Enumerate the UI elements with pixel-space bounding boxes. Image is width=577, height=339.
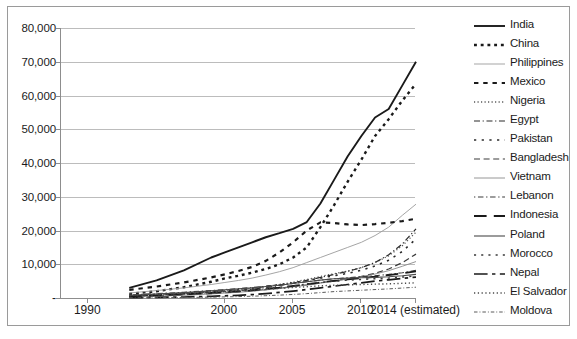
legend-item-nigeria[interactable]: Nigeria [474,90,570,109]
legend-swatch-icon [474,75,505,87]
legend-item-lebanon[interactable]: Lebanon [474,186,570,205]
legend-item-el-salvador[interactable]: El Salvador [474,281,570,300]
y-tick-label: 70,000 [4,56,56,68]
legend-item-philippines[interactable]: Philippines [474,52,570,71]
y-tick-label: 20,000 [4,225,56,237]
legend-label: Egypt [510,113,538,125]
legend-label: Poland [510,228,545,240]
series-line-nigeria [129,232,416,296]
series-line-pakistan [129,239,416,296]
chart-figure: 80,00070,00060,00050,00040,00030,00020,0… [0,0,577,339]
legend-item-nepal[interactable]: Nepal [474,262,570,281]
legend-label: Mexico [510,75,545,87]
legend-label: El Salvador [510,285,567,297]
x-tick-label: 2014 (estimated) [370,303,460,317]
legend-item-china[interactable]: China [474,33,570,52]
y-tick-label: 10,000 [4,258,56,270]
legend-label: Nepal [510,266,539,278]
legend-label: Pakistan [510,132,553,144]
legend-swatch-icon [474,18,505,30]
x-tick-label: 2005 [279,303,306,317]
legend-label: Morocco [510,247,553,259]
legend-swatch-icon [474,208,505,220]
legend-label: Indonesia [510,208,558,220]
legend-item-egypt[interactable]: Egypt [474,109,570,128]
series-line-philippines [129,204,416,293]
legend-item-mexico[interactable]: Mexico [474,71,570,90]
legend-label: China [510,37,539,49]
series-line-china [129,84,416,294]
legend-label: Vietnam [510,170,551,182]
legend-swatch-icon [474,247,505,259]
chart-legend: IndiaChinaPhilippinesMexicoNigeriaEgyptP… [474,14,570,320]
legend-swatch-icon [474,304,505,316]
y-tick-mark [56,298,61,299]
legend-swatch-icon [474,94,505,106]
legend-swatch-icon [474,285,505,297]
legend-item-poland[interactable]: Poland [474,224,570,243]
legend-item-bangladesh[interactable]: Bangladesh [474,148,570,167]
series-lines [61,28,416,298]
y-tick-label: - [4,291,56,305]
legend-label: India [510,18,534,30]
legend-label: Moldova [510,304,552,316]
y-tick-label: 80,000 [4,22,56,34]
x-tick-label: 2000 [210,303,237,317]
y-tick-label: 30,000 [4,191,56,203]
legend-swatch-icon [474,132,505,144]
series-line-mexico [129,219,416,290]
legend-swatch-icon [474,266,505,278]
legend-item-vietnam[interactable]: Vietnam [474,167,570,186]
x-tick-label: 1990 [74,303,101,317]
y-tick-label: 60,000 [4,90,56,102]
legend-swatch-icon [474,113,505,125]
y-tick-label: 40,000 [4,157,56,169]
series-line-poland [129,274,416,295]
legend-item-moldova[interactable]: Moldova [474,300,570,319]
legend-label: Bangladesh [510,151,569,163]
legend-item-morocco[interactable]: Morocco [474,243,570,262]
legend-swatch-icon [474,37,505,49]
legend-item-pakistan[interactable]: Pakistan [474,129,570,148]
legend-swatch-icon [474,228,505,240]
legend-label: Lebanon [510,189,553,201]
legend-swatch-icon [474,56,505,68]
series-line-india [129,62,416,288]
legend-item-indonesia[interactable]: Indonesia [474,205,570,224]
legend-swatch-icon [474,151,505,163]
plot-area [60,28,415,298]
legend-swatch-icon [474,170,505,182]
legend-item-india[interactable]: India [474,14,570,33]
gridline [61,298,415,299]
legend-swatch-icon [474,189,505,201]
legend-label: Nigeria [510,94,545,106]
legend-label: Philippines [510,56,563,68]
y-tick-label: 50,000 [4,123,56,135]
